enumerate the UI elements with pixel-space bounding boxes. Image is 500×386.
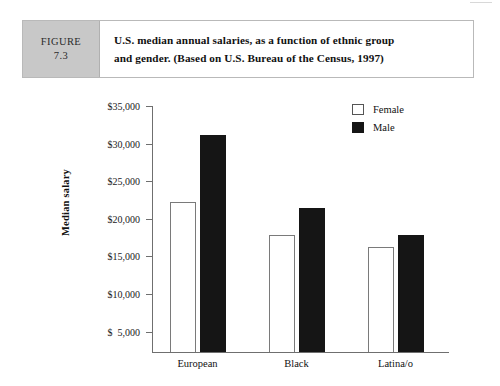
y-axis-tick [146, 144, 152, 145]
bar-black-female [269, 235, 295, 352]
figure-number-cell: FIGURE 7.3 [23, 21, 100, 77]
figure-number: 7.3 [54, 49, 68, 63]
x-axis-label-latina-o: Latina/o [378, 358, 413, 369]
legend-item-male: Male [352, 121, 404, 134]
legend-label-male: Male [373, 122, 395, 133]
y-axis-title: Median salary [60, 169, 71, 236]
y-axis-line [152, 106, 153, 353]
figure-caption-line-1: U.S. median annual salaries, as a functi… [114, 31, 463, 49]
legend-swatch-male-icon [352, 122, 364, 133]
bar-european-male [200, 135, 226, 352]
y-axis-tick [146, 181, 152, 182]
bar-european-female [170, 202, 196, 352]
y-axis-tick [146, 332, 152, 333]
legend-swatch-female-icon [352, 104, 364, 115]
y-axis-tick [146, 294, 152, 295]
chart-legend: Female Male [352, 103, 404, 139]
figure-label-word: FIGURE [41, 35, 81, 49]
bar-latina-o-male [398, 235, 424, 352]
legend-item-female: Female [352, 103, 404, 116]
legend-label-female: Female [373, 104, 404, 115]
x-axis-label-black: Black [284, 358, 309, 369]
y-axis-tick-label: $35,000 [74, 101, 140, 112]
bar-chart: Median salary $35,000$30,000$25,000$20,0… [0, 86, 500, 386]
y-axis-tick [146, 106, 152, 107]
page-edge-rule [470, 2, 492, 3]
y-axis-tick-label: $25,000 [74, 176, 140, 187]
y-axis-tick-label: $10,000 [74, 289, 140, 300]
bar-black-male [299, 208, 325, 352]
x-axis-label-european: European [177, 358, 217, 369]
x-axis-line [152, 352, 449, 353]
figure-caption-line-2: and gender. (Based on U.S. Bureau of the… [114, 49, 463, 67]
y-axis-tick-label: $15,000 [74, 251, 140, 262]
y-axis-tick [146, 256, 152, 257]
y-axis-tick [146, 219, 152, 220]
y-axis-tick-label: $20,000 [74, 213, 140, 224]
y-axis-tick-label: $30,000 [74, 138, 140, 149]
figure-caption-block: FIGURE 7.3 U.S. median annual salaries, … [22, 20, 474, 78]
bar-latina-o-female [368, 247, 394, 352]
y-axis-tick-label: $ 5,000 [74, 326, 140, 337]
figure-caption-text: U.S. median annual salaries, as a functi… [100, 21, 473, 77]
